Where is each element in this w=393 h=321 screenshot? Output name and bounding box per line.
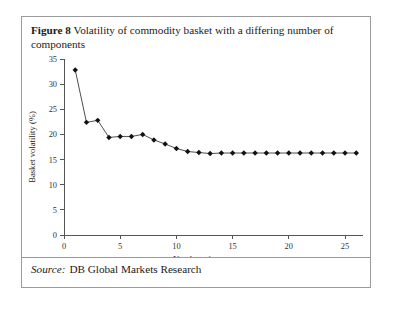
figure-caption-text: Volatility of commodity basket with a di… [31,24,333,50]
series-line-basket-volatility [75,70,356,153]
x-tick-label: 0 [62,242,66,251]
data-point-marker [196,150,201,155]
data-point-marker [230,150,235,155]
data-point-marker [354,150,359,155]
series-markers [73,67,359,156]
y-axis-ticks: 05101520253035 [49,55,64,240]
data-point-marker [118,134,123,139]
chart-plot-area: 05101520253035 0510152025 Basket volatil… [22,55,370,257]
y-tick-label: 15 [49,156,57,165]
y-tick-label: 5 [53,206,57,215]
y-tick-label: 25 [49,105,57,114]
data-point-marker [207,151,212,156]
y-tick-label: 35 [49,55,57,64]
y-tick-label: 30 [49,80,57,89]
x-tick-label: 5 [118,242,122,251]
figure-card: Figure 8 Volatility of commodity basket … [21,16,371,288]
y-tick-label: 20 [49,130,57,139]
data-point-marker [95,118,100,123]
data-point-marker [331,150,336,155]
data-point-marker [320,150,325,155]
data-point-marker [162,141,167,146]
source-divider [22,257,370,258]
data-point-marker [106,135,111,140]
x-tick-label: 25 [341,242,349,251]
data-point-marker [252,150,257,155]
y-tick-label: 0 [53,231,57,240]
data-point-marker [275,150,280,155]
data-point-marker [286,150,291,155]
data-point-marker [309,150,314,155]
data-point-marker [84,120,89,125]
y-tick-label: 10 [49,181,57,190]
data-point-marker [264,150,269,155]
x-tick-label: 15 [228,242,236,251]
data-point-marker [129,134,134,139]
data-point-marker [185,149,190,154]
source-value: DB Global Markets Research [69,263,201,275]
data-point-marker [297,150,302,155]
data-point-marker [241,150,246,155]
x-tick-label: 20 [285,242,293,251]
data-point-marker [219,150,224,155]
source-line: Source:DB Global Markets Research [31,263,201,275]
data-point-marker [140,132,145,137]
data-point-marker [342,150,347,155]
data-point-marker [151,137,156,142]
y-axis-title: Basket volatility (%) [27,111,37,183]
x-axis-ticks: 0510152025 [62,235,349,251]
figure-label: Figure 8 [31,24,71,36]
data-point-marker [174,146,179,151]
figure-caption: Figure 8 Volatility of commodity basket … [31,23,363,51]
source-label: Source: [31,263,65,275]
x-tick-label: 10 [172,242,180,251]
volatility-line-chart: 05101520253035 0510152025 Basket volatil… [22,55,370,257]
data-point-marker [73,67,78,72]
